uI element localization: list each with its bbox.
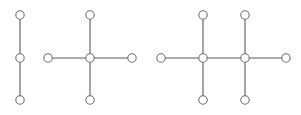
path-graph-3-node-a [16,11,24,19]
double-star-8-node-t2 [241,11,249,19]
path-graph-3-node-b [16,54,24,62]
path-graph-3-node-c [16,96,24,104]
double-star-8-node-c1 [199,54,207,62]
star-graph-5-node-center [86,54,94,62]
graph-diagram [0,0,301,115]
double-star-8-node-t1 [199,11,207,19]
double-star-8-node-b2 [241,96,249,104]
double-star-8-node-b1 [199,96,207,104]
double-star-8-node-left [157,54,165,62]
star-graph-5-node-bottom [86,96,94,104]
star-graph-5-node-left [44,54,52,62]
star-graph-5-node-top [86,11,94,19]
double-star-8-node-right [282,54,290,62]
double-star-8-node-c2 [241,54,249,62]
star-graph-5-node-right [128,54,136,62]
